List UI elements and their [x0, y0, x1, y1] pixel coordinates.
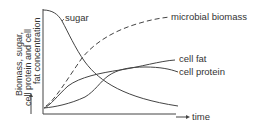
- label-cell-protein: cell protein: [179, 66, 225, 77]
- sugar-label-leader: [62, 19, 64, 21]
- chart: time Biomass, sugar, cell protein and ce…: [0, 0, 260, 125]
- label-sugar: sugar: [65, 12, 89, 23]
- svg-text:fat concentration: fat concentration: [32, 17, 42, 84]
- y-axis-label: Biomass, sugar, cell protein and cell fa…: [14, 17, 42, 106]
- x-axis-label: time: [192, 111, 210, 122]
- series-sugar: [43, 10, 178, 106]
- label-microbial-biomass: microbial biomass: [171, 11, 247, 22]
- time-arrow-head: [186, 115, 190, 119]
- label-cell-fat: cell fat: [179, 53, 207, 64]
- series-microbial-biomass: [46, 17, 170, 106]
